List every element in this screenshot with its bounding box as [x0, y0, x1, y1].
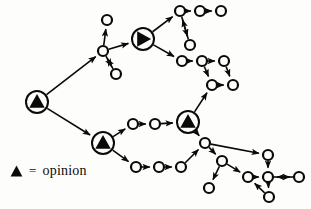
legend: = opinion [10, 164, 87, 178]
graph-node[interactable] [204, 183, 214, 193]
graph-node[interactable] [175, 6, 185, 16]
graph-edge [196, 131, 200, 136]
graph-node[interactable] [176, 162, 186, 172]
legend-equals: = [29, 164, 37, 178]
node-circle [195, 6, 205, 16]
graph-node[interactable] [102, 15, 112, 25]
graph-node[interactable] [207, 80, 217, 90]
node-circle [263, 172, 273, 182]
opinion-node[interactable] [92, 132, 114, 154]
graph-node[interactable] [219, 56, 229, 66]
node-circle [197, 56, 207, 66]
graph-edge [195, 93, 207, 112]
node-circle [264, 192, 274, 202]
node-circle [216, 6, 226, 16]
graph-node[interactable] [177, 56, 187, 66]
graph-edge [213, 166, 219, 179]
graph-node[interactable] [185, 40, 195, 50]
node-circle [204, 183, 214, 193]
node-circle [177, 56, 187, 66]
graph-node[interactable] [128, 119, 138, 129]
graph-node[interactable] [111, 69, 121, 79]
node-circle [217, 156, 227, 166]
graph-node[interactable] [131, 162, 141, 172]
node-circle [175, 6, 185, 16]
graph-node[interactable] [195, 6, 205, 16]
graph-edge [113, 150, 129, 162]
triangle-marker-icon [10, 165, 23, 177]
legend-label: opinion [43, 164, 87, 178]
graph-edge [161, 123, 173, 124]
graph-node[interactable] [263, 172, 273, 182]
node-circle [98, 46, 108, 56]
graph-node[interactable] [243, 172, 253, 182]
graph-edge [227, 164, 240, 172]
graph-edge [209, 147, 216, 154]
graph-node[interactable] [294, 172, 304, 182]
graph-node[interactable] [197, 56, 207, 66]
node-circle [294, 172, 304, 182]
node-circle [200, 138, 210, 148]
node-circle [243, 172, 253, 182]
node-circle [111, 69, 121, 79]
node-circle [102, 15, 112, 25]
graph-node[interactable] [98, 46, 108, 56]
graph-edge [109, 43, 129, 49]
graph-edge [153, 45, 174, 57]
graph-node[interactable] [263, 150, 273, 160]
graph-node[interactable] [264, 192, 274, 202]
opinion-graph-figure: = opinion [0, 0, 311, 209]
graph-node[interactable] [228, 80, 238, 90]
graph-edge [204, 67, 208, 77]
node-circle [263, 150, 273, 160]
graph-edge [226, 67, 230, 77]
graph-edge [153, 17, 173, 32]
opinion-node[interactable] [132, 28, 154, 50]
graph-edge [108, 59, 114, 69]
graph-edge [104, 29, 106, 45]
node-circle [219, 56, 229, 66]
graph-edge [183, 20, 189, 39]
node-circle [131, 162, 141, 172]
graph-edge [185, 150, 198, 163]
node-circle [185, 40, 195, 50]
graph-edge [113, 129, 125, 137]
opinion-node[interactable] [177, 111, 199, 133]
graph-node[interactable] [150, 119, 160, 129]
graph-edge [47, 57, 96, 95]
graph-node[interactable] [216, 6, 226, 16]
node-circle [228, 80, 238, 90]
node-circle [176, 162, 186, 172]
node-circle [207, 80, 217, 90]
node-circle [128, 119, 138, 129]
graph-edge [255, 183, 265, 193]
node-circle [154, 162, 164, 172]
graph-node[interactable] [200, 138, 210, 148]
graph-node[interactable] [154, 162, 164, 172]
node-circle [150, 119, 160, 129]
graph-edge [211, 144, 259, 153]
opinion-node[interactable] [26, 91, 48, 113]
graph-edge [47, 108, 90, 135]
graph-node[interactable] [217, 156, 227, 166]
